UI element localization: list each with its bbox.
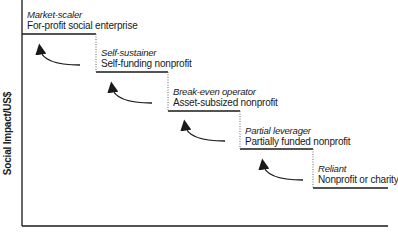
curved-arrow-icon [40, 49, 80, 65]
step-label-4: Partial leverager Partially funded nonpr… [245, 125, 350, 147]
step-label-3: Break-even operator Asset-subsized nonpr… [173, 86, 278, 108]
step-kind: Partially funded nonprofit [245, 136, 350, 147]
step-kind: For-profit social enterprise [27, 20, 138, 31]
step-role: Partial leverager [245, 125, 350, 136]
step-role: Break-even operator [173, 86, 278, 97]
step-kind: Self-funding nonprofit [101, 58, 192, 69]
step-role: Market-scaler [27, 9, 138, 20]
step-label-1: Market-scaler For-profit social enterpri… [27, 9, 138, 31]
step-role: Reliant [318, 163, 398, 174]
curved-arrow-icon [185, 125, 225, 141]
step-role: Self-sustainer [101, 47, 192, 58]
step-label-5: Reliant Nonprofit or charity [318, 163, 398, 185]
curved-arrow-icon [263, 164, 303, 180]
step-label-2: Self-sustainer Self-funding nonprofit [101, 47, 192, 69]
step-kind: Nonprofit or charity [318, 174, 398, 185]
curved-arrow-icon [112, 87, 152, 103]
y-axis-label: Social Impact/US$ [2, 89, 13, 179]
step-kind: Asset-subsized nonprofit [173, 97, 278, 108]
